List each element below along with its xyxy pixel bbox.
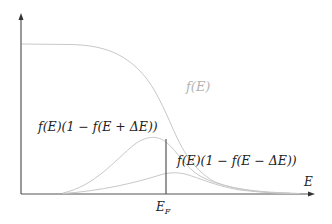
bell-plus-label: f(E)(1 − f(E + ΔE)) (38, 121, 158, 134)
y-axis-arrow-icon (19, 13, 24, 20)
fermi-level-label: EF (156, 201, 170, 216)
x-axis-label: E (304, 176, 313, 188)
bell-minus-label: f(E)(1 − f(E − ΔE)) (177, 155, 297, 168)
fermi-level-label-main: E (156, 200, 165, 214)
diagram-canvas (0, 0, 332, 224)
fermi-curve-label: f(E) (186, 80, 210, 93)
fermi-level-label-sub: F (165, 207, 171, 216)
x-axis-arrow-icon (308, 192, 315, 197)
